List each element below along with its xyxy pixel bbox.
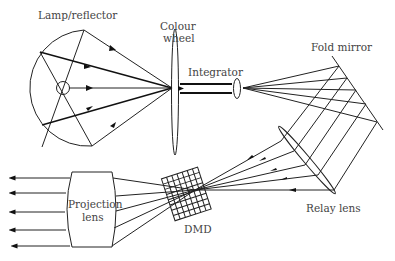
label-relay-lens: Relay lens [306, 202, 361, 214]
label-dmd: DMD [184, 223, 212, 235]
label-projection-lens-line2: lens [82, 211, 104, 223]
label-lamp-reflector: Lamp/reflector [38, 9, 118, 21]
rays-relay-to-dmd [195, 141, 334, 192]
label-projection-lens-line1: Projection [68, 198, 123, 210]
dlp-optical-diagram: Lamp/reflector Colour wheel Integrator F… [0, 0, 395, 261]
label-fold-mirror: Fold mirror [311, 41, 373, 53]
rays-to-fold-mirror [243, 66, 377, 122]
rays-fold-to-relay [281, 66, 377, 190]
label-colour-wheel-line2: wheel [163, 32, 195, 44]
output-rays [12, 178, 70, 246]
colour-wheel [172, 29, 179, 155]
fold-mirror [332, 56, 383, 130]
integrator [178, 79, 241, 99]
label-colour-wheel-line1: Colour [160, 20, 197, 32]
label-integrator: Integrator [188, 66, 244, 78]
lamp-reflector [30, 30, 172, 147]
